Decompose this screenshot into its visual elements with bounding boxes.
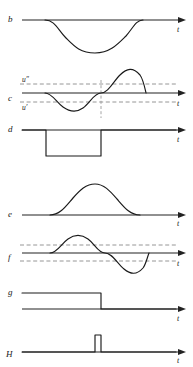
waveform-figure: b t c t u″ u′ d t e xyxy=(0,0,193,367)
panel-f-axis-arrowhead xyxy=(178,250,186,256)
panel-H-plot xyxy=(0,330,193,367)
panel-e-axis-arrowhead xyxy=(178,212,186,218)
panel-d: d t xyxy=(0,118,193,170)
panel-g-label: g xyxy=(8,288,13,297)
panel-H-label: H xyxy=(6,350,13,359)
panel-d-pulse xyxy=(22,130,176,156)
panel-b: b t xyxy=(0,0,193,62)
panel-H-spike xyxy=(22,335,176,352)
panel-g-plot xyxy=(0,282,193,330)
panel-c-label: c xyxy=(8,94,12,103)
panel-c-curve xyxy=(45,69,146,111)
panel-H: H t xyxy=(0,330,193,367)
panel-b-plot xyxy=(0,0,193,62)
panel-f: f t xyxy=(0,226,193,282)
panel-f-axis-label: t xyxy=(177,260,179,268)
panel-f-label: f xyxy=(8,253,11,262)
panel-e-curve xyxy=(50,184,140,215)
panel-c-axis-label: t xyxy=(177,100,179,108)
panel-c-axis-arrowhead xyxy=(178,90,186,96)
panel-b-axis-arrowhead xyxy=(178,17,186,23)
panel-b-axis-label: t xyxy=(177,26,179,34)
panel-g: g t xyxy=(0,282,193,330)
panel-d-axis-arrowhead xyxy=(178,127,186,133)
panel-c-plot xyxy=(0,62,193,118)
panel-c: c t u″ u′ xyxy=(0,62,193,118)
panel-d-axis-label: t xyxy=(177,136,179,144)
panel-c-level-label-lower: u′ xyxy=(22,104,27,112)
panel-H-axis-arrowhead xyxy=(178,349,186,355)
panel-d-plot xyxy=(0,118,193,170)
panel-e-label: e xyxy=(8,210,12,219)
panel-H-axis-label: t xyxy=(177,357,179,365)
panel-e-plot xyxy=(0,170,193,226)
panel-e: e t xyxy=(0,170,193,226)
panel-g-axis-arrowhead xyxy=(178,306,186,312)
panel-f-plot xyxy=(0,226,193,282)
panel-f-curve xyxy=(50,235,149,273)
panel-g-axis-label: t xyxy=(177,315,179,323)
panel-b-label: b xyxy=(8,15,13,24)
panel-g-step xyxy=(22,293,176,309)
panel-b-curve xyxy=(45,20,143,53)
panel-c-level-label-upper: u″ xyxy=(22,76,29,84)
panel-d-label: d xyxy=(8,125,13,134)
